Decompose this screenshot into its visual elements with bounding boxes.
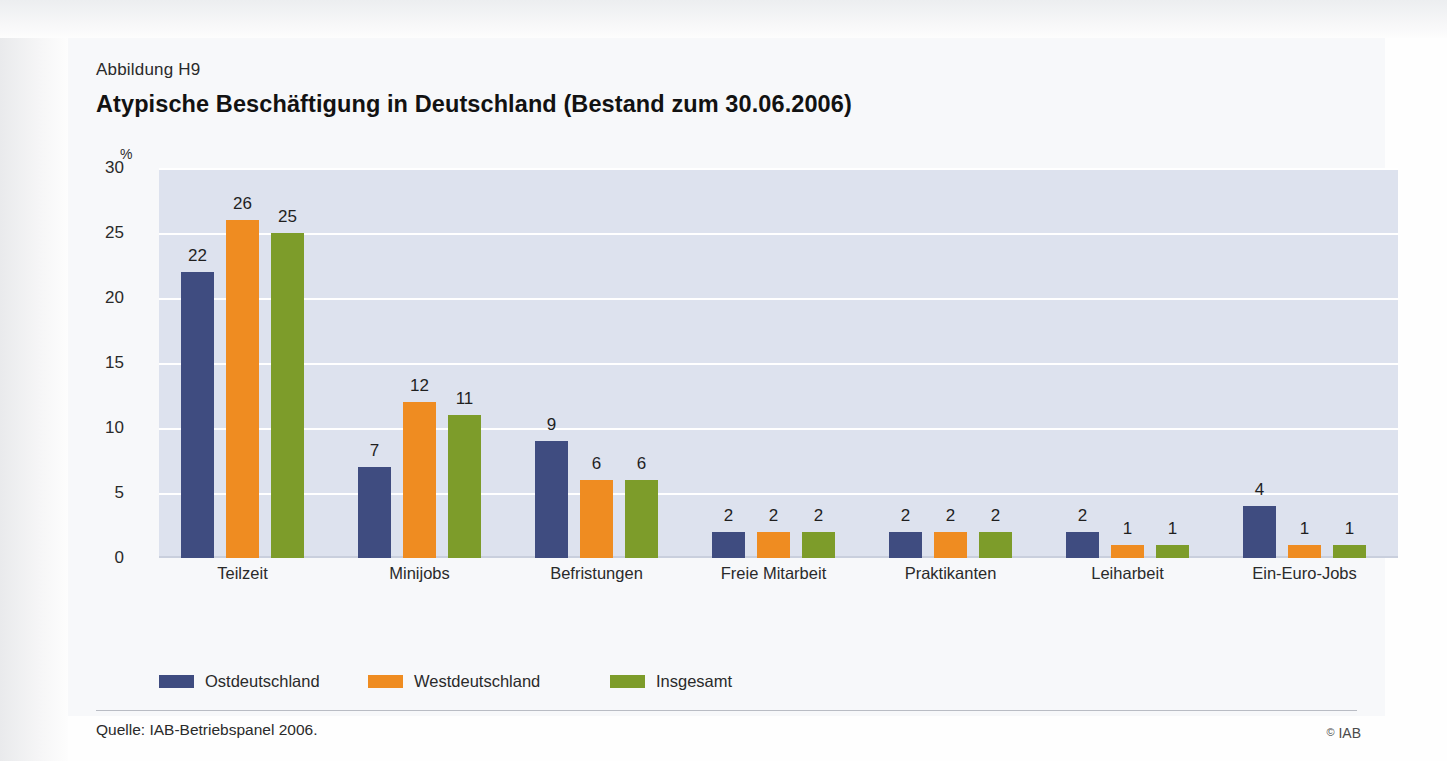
- bar-value-label: 25: [258, 207, 318, 227]
- bar-value-label: 11: [435, 389, 495, 409]
- x-axis-category-label: Minijobs: [389, 564, 450, 583]
- bar: [712, 532, 745, 558]
- bar-value-label: 2: [966, 506, 1026, 526]
- legend-swatch-icon: [610, 675, 645, 688]
- bar: [1243, 506, 1276, 558]
- bar: [625, 480, 658, 558]
- bar: [1156, 545, 1189, 558]
- bar: [181, 272, 214, 558]
- bar: [448, 415, 481, 558]
- scanned-page: Abbildung H9 Atypische Beschäftigung in …: [0, 0, 1447, 761]
- bar-value-label: 1: [1320, 519, 1380, 539]
- bar: [403, 402, 436, 558]
- figure-number: Abbildung H9: [96, 60, 200, 80]
- bar-value-label: 7: [345, 441, 405, 461]
- bar: [1288, 545, 1321, 558]
- source-note: Quelle: IAB-Betriebspanel 2006.: [96, 721, 317, 739]
- bar-value-label: 6: [612, 454, 672, 474]
- bar: [1333, 545, 1366, 558]
- figure-card: Abbildung H9 Atypische Beschäftigung in …: [68, 38, 1385, 716]
- figure-title: Atypische Beschäftigung in Deutschland (…: [96, 91, 852, 118]
- legend-label: Westdeutschland: [414, 672, 540, 691]
- legend-swatch-icon: [159, 675, 194, 688]
- legend-item-ostdeutschland[interactable]: Ostdeutschland: [159, 672, 320, 691]
- bar: [271, 233, 304, 558]
- y-axis-tick-label: 15: [64, 353, 124, 373]
- x-axis-category-label: Praktikanten: [905, 564, 997, 583]
- gridline: [159, 363, 1398, 365]
- bar: [1111, 545, 1144, 558]
- bar-value-label: 1: [1143, 519, 1203, 539]
- bar: [1066, 532, 1099, 558]
- gridline: [159, 428, 1398, 430]
- x-axis-category-label: Teilzeit: [217, 564, 267, 583]
- plot-region: 22262571211966222222211411: [159, 168, 1398, 558]
- bar-value-label: 4: [1230, 480, 1290, 500]
- y-axis-tick-label: 0: [64, 548, 124, 568]
- bar-value-label: 2: [789, 506, 849, 526]
- chart-area: % 051015202530 2226257121196622222221141…: [96, 146, 1366, 626]
- bar: [358, 467, 391, 558]
- bar: [979, 532, 1012, 558]
- y-axis-tick-label: 25: [64, 223, 124, 243]
- copyright-icon: ©: [1326, 726, 1334, 738]
- legend-swatch-icon: [368, 675, 403, 688]
- x-axis-category-label: Ein-Euro-Jobs: [1252, 564, 1357, 583]
- bar: [580, 480, 613, 558]
- bar-value-label: 22: [168, 246, 228, 266]
- bar: [802, 532, 835, 558]
- legend-item-westdeutschland[interactable]: Westdeutschland: [368, 672, 540, 691]
- bar: [226, 220, 259, 558]
- gridline: [159, 493, 1398, 495]
- y-axis-tick-label: 20: [64, 288, 124, 308]
- footer-divider: [96, 710, 1357, 711]
- gridline: [159, 298, 1398, 300]
- legend-label: Ostdeutschland: [205, 672, 320, 691]
- gridline: [159, 168, 1398, 170]
- y-axis-tick-label: 30: [64, 158, 124, 178]
- bar-value-label: 9: [522, 415, 582, 435]
- legend-label: Insgesamt: [656, 672, 732, 691]
- gridline: [159, 233, 1398, 235]
- x-axis-category-label: Leiharbeit: [1091, 564, 1163, 583]
- legend-item-insgesamt[interactable]: Insgesamt: [610, 672, 732, 691]
- x-axis-category-label: Befristungen: [550, 564, 643, 583]
- x-axis-category-label: Freie Mitarbeit: [721, 564, 826, 583]
- y-axis-tick-label: 5: [64, 483, 124, 503]
- y-axis-tick-label: 10: [64, 418, 124, 438]
- copyright-note: © IAB: [1326, 725, 1361, 741]
- bar: [934, 532, 967, 558]
- bar: [889, 532, 922, 558]
- bar: [535, 441, 568, 558]
- bar: [757, 532, 790, 558]
- copyright-label: IAB: [1338, 725, 1361, 741]
